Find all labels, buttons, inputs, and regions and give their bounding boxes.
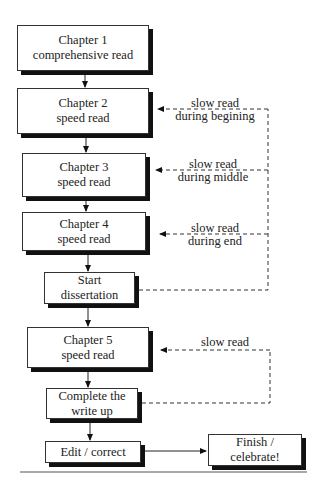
node-line-2: speed read (61, 348, 114, 363)
dashed-loop-ch5 (142, 350, 270, 403)
node-line-1: Complete the (59, 389, 126, 404)
node-line-2: dissertation (61, 288, 119, 303)
node-chapter-2: Chapter 2 speed read (17, 88, 149, 134)
node-line-1: Edit / correct (60, 445, 125, 460)
label-line-2: during middle (168, 171, 258, 184)
label-line-1: slow read (180, 336, 270, 349)
node-line-1: Start (78, 273, 102, 288)
feedback-label-middle: slow read during middle (168, 158, 258, 184)
node-line-1: Finish / (236, 435, 274, 450)
node-start-dissertation: Start dissertation (44, 272, 135, 304)
node-chapter-1: Chapter 1 comprehensive read (17, 25, 149, 71)
node-line-2: comprehensive read (33, 48, 133, 63)
node-line-2: speed read (56, 111, 109, 126)
node-chapter-3: Chapter 3 speed read (22, 153, 146, 197)
node-finish-celebrate: Finish / celebrate! (208, 434, 302, 466)
node-line-1: Chapter 2 (59, 96, 108, 111)
node-line-1: Chapter 5 (64, 333, 113, 348)
node-line-1: Chapter 1 (59, 33, 108, 48)
node-line-2: write up (71, 404, 112, 419)
node-line-2: speed read (57, 175, 110, 190)
dashed-loop-main (139, 109, 268, 290)
node-chapter-4: Chapter 4 speed read (22, 212, 146, 251)
label-line-2: during end (170, 235, 260, 248)
node-line-2: celebrate! (230, 450, 279, 465)
feedback-label-ch5: slow read (180, 336, 270, 349)
connector-lines (0, 0, 323, 502)
node-line-2: speed read (57, 232, 110, 247)
feedback-label-end: slow read during end (170, 222, 260, 248)
node-line-1: Chapter 3 (60, 160, 109, 175)
feedback-label-begining: slow read during begining (170, 97, 260, 123)
node-complete-write-up: Complete the write up (46, 388, 138, 419)
node-chapter-5: Chapter 5 speed read (27, 327, 149, 368)
node-line-1: Chapter 4 (60, 217, 109, 232)
label-line-2: during begining (170, 110, 260, 123)
node-edit-correct: Edit / correct (45, 441, 141, 463)
